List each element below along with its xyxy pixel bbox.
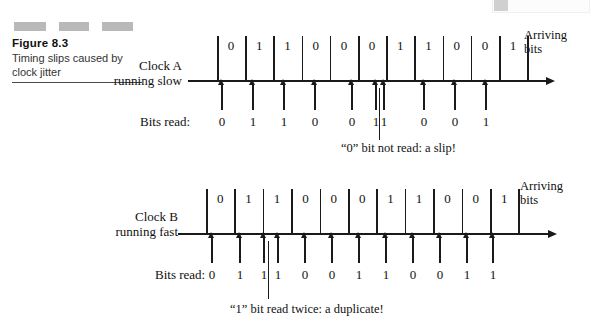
sampling-arrowhead xyxy=(274,232,280,238)
arriving-bit: 1 xyxy=(412,191,426,207)
sampling-arrow xyxy=(331,237,332,263)
sampling-arrow xyxy=(221,84,222,110)
clock-b-label: Clock B running fast xyxy=(106,209,178,239)
read-bit: 0 xyxy=(417,114,431,130)
arriving-bit: 1 xyxy=(497,191,511,207)
sampling-arrowhead xyxy=(372,79,378,85)
arriving-bit: 1 xyxy=(252,38,266,54)
arriving-bit: 1 xyxy=(281,38,295,54)
decorative-bar xyxy=(102,22,133,31)
sampling-arrow xyxy=(454,84,455,110)
read-bit: 1 xyxy=(277,114,291,130)
arriving-bit: 1 xyxy=(506,38,520,54)
sampling-arrowhead xyxy=(489,232,495,238)
bit-cell-separator xyxy=(348,189,350,233)
sampling-arrow xyxy=(466,237,467,263)
annotation-leader-line xyxy=(379,88,380,140)
arriving-bit: 0 xyxy=(365,38,379,54)
bit-cell-separator xyxy=(490,189,492,233)
read-bit: 0 xyxy=(298,267,312,283)
decorative-bars xyxy=(12,22,144,31)
read-bit: 1 xyxy=(486,267,500,283)
sampling-arrow xyxy=(211,237,212,263)
bit-cell-separator xyxy=(217,36,219,80)
bit-cell-separator xyxy=(206,189,208,233)
sampling-arrowhead xyxy=(260,232,266,238)
annotation-leader-line xyxy=(268,241,269,299)
read-bit: 0 xyxy=(215,114,229,130)
sampling-arrow xyxy=(385,237,386,263)
sampling-arrow xyxy=(277,237,278,263)
duplicate-annotation: “1” bit read twice: a duplicate! xyxy=(230,302,384,317)
bit-cell-separator xyxy=(273,36,275,80)
slip-annotation: “0” bit not read: a slip! xyxy=(341,141,456,156)
read-bit: 1 xyxy=(233,267,247,283)
time-axis-arrowhead xyxy=(546,77,555,85)
bit-cell-separator xyxy=(471,36,473,80)
time-axis-arrowhead xyxy=(548,230,557,238)
arriving-bit: 0 xyxy=(469,191,483,207)
bit-cell-separator xyxy=(291,189,293,233)
arriving-bits-label: Arriving bits xyxy=(524,28,567,56)
sampling-arrowhead xyxy=(249,79,255,85)
bit-cell-separator xyxy=(263,189,265,233)
sampling-arrow xyxy=(492,237,493,263)
read-bit: 1 xyxy=(460,267,474,283)
arriving-bit: 0 xyxy=(327,191,341,207)
sampling-arrowhead xyxy=(328,232,334,238)
sampling-arrowhead xyxy=(355,232,361,238)
read-bit: 0 xyxy=(345,114,359,130)
bit-cell-separator xyxy=(234,189,236,233)
arriving-bit: 0 xyxy=(213,191,227,207)
arriving-bit: 1 xyxy=(422,38,436,54)
clock-a-label: Clock A running slow xyxy=(110,58,182,88)
arriving-bit: 1 xyxy=(270,191,284,207)
sampling-arrow xyxy=(314,84,315,110)
sampling-arrow xyxy=(412,237,413,263)
sampling-arrow xyxy=(375,84,376,110)
bit-cell-separator xyxy=(376,189,378,233)
decorative-bar xyxy=(14,22,46,31)
sampling-arrowhead xyxy=(409,232,415,238)
bit-cell-separator xyxy=(518,189,520,233)
read-bit: 1 xyxy=(379,267,393,283)
decorative-bar xyxy=(59,22,89,31)
sampling-arrow xyxy=(358,237,359,263)
read-bit: 1 xyxy=(479,114,493,130)
sampling-arrowhead xyxy=(463,232,469,238)
read-bit: 0 xyxy=(448,114,462,130)
scan-artifact xyxy=(492,0,590,13)
arriving-bit: 1 xyxy=(393,38,407,54)
sampling-arrowhead xyxy=(482,79,488,85)
bit-cell-separator xyxy=(499,36,501,80)
sampling-arrowhead xyxy=(301,232,307,238)
bit-cell-separator xyxy=(358,36,360,80)
bit-cell-separator xyxy=(320,189,322,233)
bits-read-label: Bits read: xyxy=(140,114,190,130)
arriving-bit: 1 xyxy=(384,191,398,207)
read-bit: 0 xyxy=(308,114,322,130)
arriving-bit: 0 xyxy=(224,38,238,54)
time-axis xyxy=(188,80,546,82)
sampling-arrow xyxy=(423,84,424,110)
arriving-bit: 0 xyxy=(337,38,351,54)
bit-cell-separator xyxy=(527,36,529,80)
bits-read-label: Bits read: xyxy=(155,267,205,283)
bit-cell-separator xyxy=(414,36,416,80)
arriving-bit: 0 xyxy=(309,38,323,54)
bit-cell-separator xyxy=(405,189,407,233)
arriving-bit: 0 xyxy=(478,38,492,54)
sampling-arrow xyxy=(304,237,305,263)
figure-page: Figure 8.3 Timing slips caused by clock … xyxy=(0,0,590,325)
sampling-arrow xyxy=(263,237,264,263)
read-bit: 0 xyxy=(325,267,339,283)
arriving-bit: 1 xyxy=(242,191,256,207)
arriving-bit: 0 xyxy=(450,38,464,54)
sampling-arrowhead xyxy=(420,79,426,85)
sampling-arrowhead xyxy=(236,232,242,238)
arriving-bits-label: Arriving bits xyxy=(520,179,563,207)
bit-cell-separator xyxy=(386,36,388,80)
sampling-arrow xyxy=(351,84,352,110)
sampling-arrowhead xyxy=(208,232,214,238)
read-bit: 1 xyxy=(271,267,285,283)
